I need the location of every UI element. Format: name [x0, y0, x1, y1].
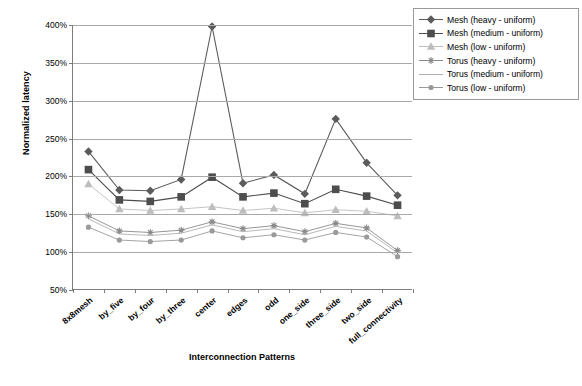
chart-figure: Normalized latency 50%100%150%200%250%30…: [0, 0, 582, 386]
legend-label: Mesh (heavy - uniform): [444, 15, 535, 25]
x-axis-tick-mark: [228, 289, 229, 293]
x-axis-tick-mark: [320, 289, 321, 293]
gridline: [73, 214, 412, 215]
x-axis-tick-mark: [135, 289, 136, 293]
data-point-square: [239, 193, 247, 201]
y-axis-tick-mark: [69, 63, 73, 64]
data-point-triangle: [427, 43, 435, 51]
data-point-diamond: [270, 171, 278, 179]
data-point-square: [85, 166, 93, 174]
legend-item[interactable]: Mesh (heavy - uniform): [418, 13, 574, 27]
data-point-star: [147, 229, 154, 236]
series-layer: [73, 25, 413, 290]
legend-item[interactable]: Mesh (medium - uniform): [418, 27, 574, 41]
series-line-0: [88, 27, 397, 196]
data-point-square: [427, 30, 435, 38]
legend-item[interactable]: Torus (heavy - uniform): [418, 54, 574, 68]
data-point-circle: [364, 234, 369, 239]
legend-label: Torus (medium - uniform): [444, 69, 543, 79]
data-point-square: [332, 186, 340, 194]
legend-item[interactable]: Torus (medium - uniform): [418, 67, 574, 81]
y-axis-tick-mark: [69, 101, 73, 102]
x-axis-tick-mark: [166, 289, 167, 293]
data-point-triangle: [270, 204, 278, 212]
y-axis-tick-mark: [69, 176, 73, 177]
data-point-star: [428, 57, 435, 64]
data-point-circle: [333, 230, 338, 235]
x-axis-tick-label: by_three: [154, 295, 188, 325]
gridline: [73, 25, 412, 26]
series-line-3: [88, 216, 397, 251]
x-axis-tick-mark: [413, 289, 414, 293]
y-axis-tick-mark: [69, 139, 73, 140]
data-point-star: [209, 218, 216, 225]
x-axis-tick-label: 8x8mesh: [61, 295, 95, 326]
y-axis-tick-mark: [69, 25, 73, 26]
y-axis-tick-label: 250%: [27, 134, 73, 144]
data-point-square: [270, 189, 278, 197]
data-point-star: [332, 220, 339, 227]
y-axis-tick-label: 300%: [27, 96, 73, 106]
y-axis-tick-label: 150%: [27, 209, 73, 219]
data-point-diamond: [427, 16, 435, 24]
y-axis-tick-label: 50%: [27, 285, 73, 295]
data-point-star: [116, 228, 123, 235]
legend-symbol-star-icon: [418, 54, 444, 67]
data-point-circle: [395, 254, 400, 259]
data-point-square: [177, 193, 185, 201]
legend-symbol-diamond-icon: [418, 13, 444, 26]
legend-symbol-square-icon: [418, 27, 444, 40]
x-axis-tick-mark: [289, 289, 290, 293]
gridline: [73, 176, 412, 177]
x-axis-tick-label: odd: [262, 295, 280, 313]
x-axis-title: Interconnection Patterns: [72, 352, 412, 362]
gridline: [73, 139, 412, 140]
data-point-circle: [428, 85, 433, 90]
x-axis-tick-mark: [351, 289, 352, 293]
x-axis-tick-mark: [73, 289, 74, 293]
chart-legend: Mesh (heavy - uniform)Mesh (medium - uni…: [413, 8, 579, 100]
legend-item[interactable]: Mesh (low - uniform): [418, 40, 574, 54]
x-axis-tick-mark: [382, 289, 383, 293]
x-axis-tick-label: full_connectivity: [346, 295, 404, 346]
gridline: [73, 63, 412, 64]
data-point-circle: [179, 237, 184, 242]
x-axis-tick-mark: [258, 289, 259, 293]
data-point-circle: [209, 228, 214, 233]
data-point-diamond: [146, 187, 154, 195]
y-axis-tick-mark: [69, 214, 73, 215]
data-point-square: [146, 198, 154, 206]
legend-label: Torus (low - uniform): [444, 83, 525, 93]
legend-label: Torus (heavy - uniform): [444, 56, 535, 66]
data-point-diamond: [301, 190, 309, 198]
y-axis-tick-label: 350%: [27, 58, 73, 68]
data-point-triangle: [208, 203, 216, 211]
data-point-square: [116, 196, 124, 204]
x-axis-tick-label: center: [193, 295, 219, 319]
legend-item[interactable]: Torus (low - uniform): [418, 81, 574, 95]
data-point-circle: [240, 235, 245, 240]
data-point-diamond: [239, 179, 247, 187]
x-axis-tick-mark: [104, 289, 105, 293]
data-point-triangle: [115, 205, 123, 213]
legend-label: Mesh (low - uniform): [444, 42, 525, 52]
data-point-triangle: [332, 206, 340, 214]
data-point-star: [271, 222, 278, 229]
x-axis-tick-label: by_four: [126, 295, 156, 323]
plot-area: 50%100%150%200%250%300%350%400%8x8meshby…: [72, 25, 412, 290]
data-point-square: [301, 200, 309, 208]
x-axis-tick-label: by_five: [97, 295, 126, 321]
data-point-square: [363, 192, 371, 200]
data-point-circle: [86, 225, 91, 230]
y-axis-tick-label: 200%: [27, 171, 73, 181]
x-axis-tick-label: edges: [224, 295, 249, 318]
y-axis-tick-label: 400%: [27, 20, 73, 30]
data-point-diamond: [208, 22, 216, 30]
data-point-diamond: [332, 115, 340, 123]
gridline: [73, 101, 412, 102]
legend-symbol-triangle-icon: [418, 40, 444, 53]
data-point-circle: [148, 239, 153, 244]
data-point-square: [394, 201, 402, 209]
gridline: [73, 252, 412, 253]
data-point-triangle: [84, 180, 92, 188]
